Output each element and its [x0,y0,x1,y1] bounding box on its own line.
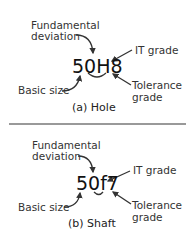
tolerance-code: 50H8 [72,56,123,76]
it-grade-label: IT grade [135,44,178,56]
divider [9,123,186,125]
annotation-arrows [0,0,194,231]
tolerance-grade-label: Tolerance [132,199,182,211]
caption-shaft: (b) Shaft [68,218,116,230]
tolerance-grade-label: Tolerance [132,79,182,91]
caption-hole: (a) Hole [72,102,116,114]
fundamental-deviation-label-2: deviation [32,150,81,162]
basic-size-label: Basic size [18,84,70,96]
tolerance-grade-label-2: grade [132,91,163,103]
basic-size-label: Basic size [18,201,70,213]
it-grade-label: IT grade [133,164,176,176]
tolerance-grade-label-2: grade [132,211,163,223]
fundamental-deviation-label-2: deviation [31,30,80,42]
tolerance-code: 50f7 [76,173,119,193]
